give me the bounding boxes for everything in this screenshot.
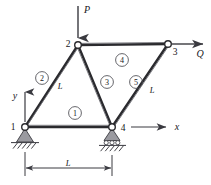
dimension-label-L: L (65, 158, 71, 168)
truss-member-4 (78, 43, 168, 46)
element-marker-1: 1 (69, 107, 82, 120)
element-marker-5: 5 (130, 76, 143, 89)
truss-figure: 1 2 3 4 1 2 3 4 5 L L P (0, 0, 211, 185)
element-label-5: 5 (134, 78, 138, 87)
load-label-Q: Q (196, 48, 204, 59)
axis-y: y (12, 90, 25, 122)
load-arrow-P: P (78, 4, 90, 38)
node-label-3: 3 (173, 47, 178, 57)
node-3-joint (165, 41, 172, 48)
load-label-P: P (83, 4, 90, 15)
node-4-joint (109, 124, 116, 131)
node-label-2: 2 (66, 39, 71, 49)
truss-member-1 (25, 125, 112, 127)
node-label-4: 4 (121, 123, 126, 133)
axis-x: x (131, 121, 180, 132)
element-marker-2: 2 (36, 72, 49, 85)
node-1-joint (22, 124, 29, 131)
element-label-4: 4 (120, 56, 124, 65)
axis-label-x: x (174, 121, 180, 132)
element-marker-4: 4 (116, 54, 129, 67)
axis-label-y: y (12, 90, 18, 101)
length-label-left-diagonal: L (57, 81, 63, 91)
node-label-1: 1 (11, 122, 16, 132)
element-marker-3: 3 (101, 76, 114, 89)
node-2-joint (75, 42, 82, 49)
element-label-3: 3 (105, 78, 109, 87)
length-label-right-diagonal: L (149, 85, 155, 95)
element-label-2: 2 (40, 74, 44, 83)
dimension-bottom-span: L (25, 152, 112, 176)
element-label-1: 1 (73, 109, 77, 118)
truss-diagram-canvas: 1 2 3 4 1 2 3 4 5 L L P (0, 0, 211, 185)
truss-member-2 (25, 45, 79, 127)
